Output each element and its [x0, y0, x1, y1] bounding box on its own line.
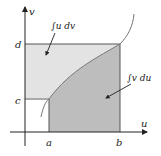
label-u-dv: ∫u dv: [51, 21, 75, 31]
tick-d: d: [15, 39, 21, 50]
tick-b: b: [116, 137, 122, 148]
y-axis-label: v: [29, 6, 35, 17]
integration-by-parts-diagram: v u d c a b ∫u dv ∫v du: [0, 0, 161, 156]
label-v-du: ∫v du: [127, 73, 151, 83]
tick-c: c: [15, 95, 21, 106]
tick-a: a: [46, 137, 52, 148]
x-axis-label: u: [141, 118, 147, 129]
